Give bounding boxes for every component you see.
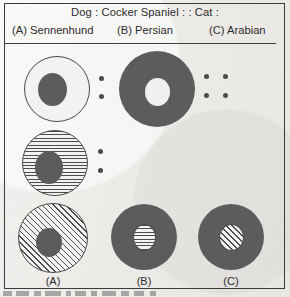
answer-options-row: (A) Sennenhund (B) Persian (C) Arabian [0,24,290,40]
colon-dot-bottom [99,94,104,99]
row1-left-inner-circle [38,73,67,106]
option-a[interactable]: (A) Sennenhund [12,24,93,36]
proportion-dot-tl [204,74,209,79]
figure-label-c: (C) [211,275,251,287]
colon-dot-top [99,76,104,81]
colon-dot-bottom [98,168,103,173]
analogy-stem: Dog : Cocker Spaniel : : Cat : [0,6,290,18]
row3-c-inner-hatched [219,224,244,251]
header-divider [5,43,276,44]
proportion-dot-tr [223,74,228,79]
option-b[interactable]: (B) Persian [117,24,173,36]
colon-dot-top [98,149,103,154]
cut-off-next-line [3,291,243,296]
row2-left-inner-circle [35,151,63,184]
figure-area: (A) (B) (C) [0,46,281,284]
row3-a-inner-circle [36,228,62,257]
proportion-dot-bl [204,93,209,98]
figure-label-a: (A) [33,275,73,287]
figure-label-b: (B) [124,275,164,287]
scanned-question-page: Dog : Cocker Spaniel : : Cat : (A) Senne… [0,0,290,297]
row3-b-inner-striped [133,224,156,251]
option-c[interactable]: (C) Arabian [209,24,266,36]
row1-right-inner-hole [145,78,170,106]
proportion-dot-br [223,93,228,98]
